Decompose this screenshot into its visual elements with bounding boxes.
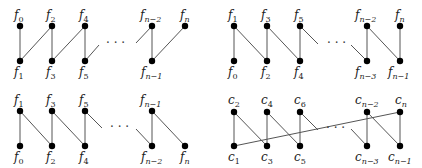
panel-top-right: f1 f3 f5 fn−2 fn f0 f2 f4 fn−3 fn−1 · · … [227,8,409,81]
node-label: cn [395,93,407,109]
node [397,109,403,115]
node [182,143,188,149]
edge [20,111,52,146]
node-label: fn−1 [140,65,162,81]
edge [52,26,85,61]
node-label: f3 [45,93,56,109]
node-label: fn [179,8,190,24]
edge [234,26,267,61]
node [149,143,155,149]
edge [367,26,400,61]
edge [351,45,367,61]
ellipsis: · · · [106,36,125,50]
edge [351,129,367,146]
node [264,58,270,64]
node-label: f1 [227,8,238,24]
edge [136,129,152,146]
long-edge [234,112,400,146]
node [49,143,55,149]
edge [367,112,400,146]
node-label: fn−2 [354,8,376,24]
node-label: fn−2 [140,150,162,166]
edge [152,111,185,146]
node-label: f2 [45,150,56,166]
node-label: f5 [293,8,304,24]
node-label: f0 [13,150,24,166]
node-label: c6 [294,93,306,109]
node-label: c5 [294,150,306,166]
edge [20,26,52,61]
node-label: c4 [261,93,273,109]
node-label: f4 [78,150,89,166]
edge [52,111,85,146]
node-label: f5 [78,93,89,109]
node-label: f0 [13,8,24,24]
node [149,58,155,64]
node-label: fn [179,150,190,166]
node-label: f1 [13,93,24,109]
node-label: fn−2 [139,8,161,24]
node-label: fn [394,8,405,24]
edge [234,112,267,146]
node [231,58,237,64]
ellipsis: · · · [110,120,129,134]
node-label: f3 [45,65,56,81]
node [17,143,23,149]
node [231,109,237,115]
node [397,58,403,64]
edge [85,111,102,128]
node [82,58,88,64]
node-label: f4 [78,8,89,24]
node-label: cn−1 [388,150,412,166]
node-label: f0 [227,65,238,81]
poset-diagrams: f0 f2 f4 fn−2 fn f1 f3 f5 fn−1 · · · f1 … [0,0,422,168]
ellipsis: · · · [327,36,346,50]
node-label: fn−3 [354,65,376,81]
node-label: fn−1 [387,65,409,81]
edge [267,112,300,146]
node-label: c2 [228,93,240,109]
node [82,143,88,149]
node-label: c3 [261,150,273,166]
node [264,143,270,149]
node [297,58,303,64]
node [17,58,23,64]
edge [300,26,318,44]
node [397,143,403,149]
node [297,109,303,115]
node [364,143,370,149]
edge [300,112,318,130]
node-label: f1 [13,65,24,81]
panel-bottom-left: f1 f3 f5 fn−1 f0 f2 f4 fn−2 fn · · · [13,93,190,166]
node-label: cn−3 [355,150,379,166]
node-label: f4 [293,65,304,81]
node-label: f5 [78,65,89,81]
node-label: fn−1 [139,93,161,109]
node-label: c1 [228,150,240,166]
node-label: f3 [260,8,271,24]
node [49,58,55,64]
ellipsis: · · · [326,121,345,135]
node-label: cn−2 [355,93,379,109]
edge [152,26,185,61]
edge [267,26,300,61]
node [231,143,237,149]
node [297,143,303,149]
panel-bottom-right: c2 c4 c6 cn−2 cn c1 c3 c5 cn−3 cn−1 · · … [228,93,412,166]
node [364,58,370,64]
node-label: f2 [45,8,56,24]
edge [136,26,152,43]
node [364,109,370,115]
node-label: f2 [260,65,271,81]
node [264,109,270,115]
panel-top-left: f0 f2 f4 fn−2 fn f1 f3 f5 fn−1 · · · [13,8,190,81]
